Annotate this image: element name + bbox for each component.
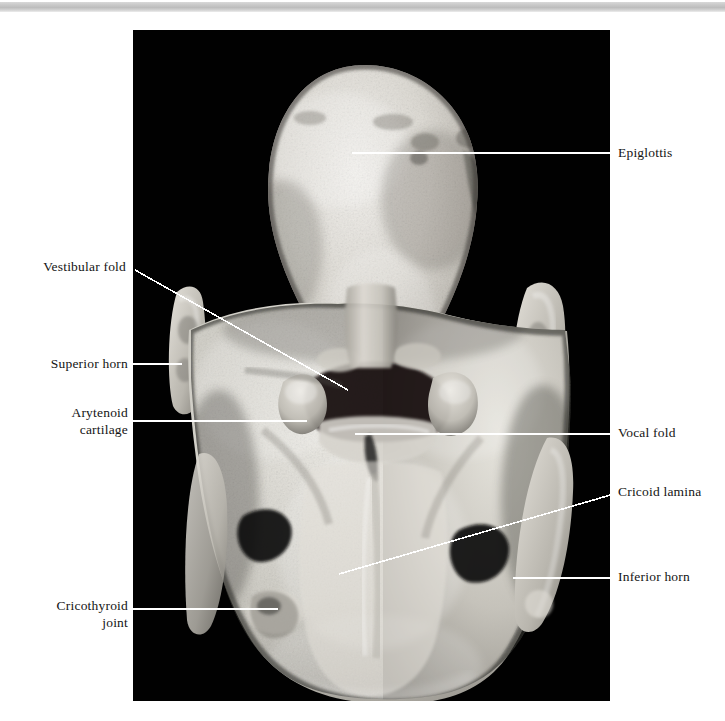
label-vocal-fold: Vocal fold — [618, 425, 676, 442]
page-top-rule — [0, 2, 725, 12]
label-cricothyroid-joint: Cricothyroid joint — [0, 598, 128, 632]
label-arytenoid-cartilage: Arytenoid cartilage — [0, 405, 128, 439]
laryngeal-stalk — [345, 284, 397, 369]
label-inferior-horn: Inferior horn — [618, 569, 690, 586]
label-vestibular-fold: Vestibular fold — [0, 259, 126, 276]
larynx-specimen-illustration — [133, 30, 610, 701]
label-epiglottis: Epiglottis — [618, 145, 673, 162]
label-superior-horn: Superior horn — [0, 356, 128, 373]
label-cricoid-lamina: Cricoid lamina — [618, 484, 701, 501]
specimen-photograph — [133, 30, 610, 701]
